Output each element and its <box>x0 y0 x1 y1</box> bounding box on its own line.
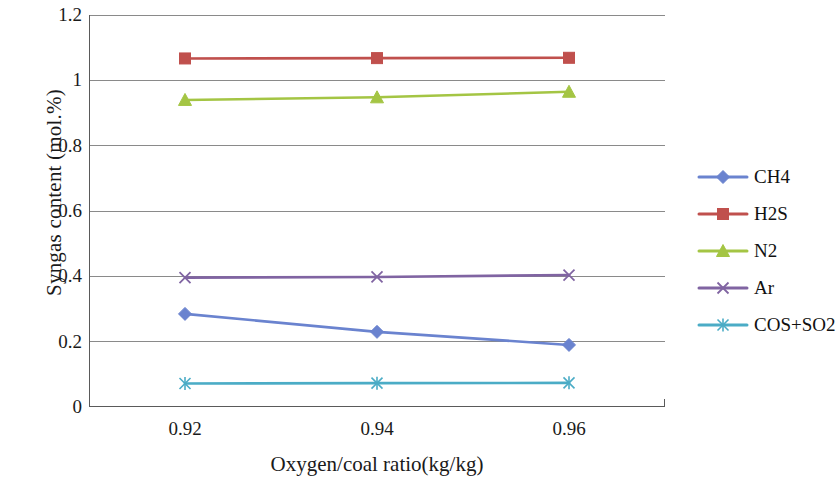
y-axis-tick-labels: 00.20.40.60.811.2 <box>30 0 82 420</box>
plot-area <box>89 15 665 407</box>
y-tick-label: 0 <box>36 397 82 416</box>
data-point-marker <box>179 307 192 320</box>
legend-item-ch4: CH4 <box>697 158 837 195</box>
x-tick-label: 0.92 <box>130 418 240 440</box>
plot-svg <box>89 15 665 407</box>
series-n2 <box>179 85 576 105</box>
x-tick-label: 0.94 <box>322 418 432 440</box>
x-axis-title: Oxygen/coal ratio(kg/kg) <box>89 452 665 477</box>
series-ch4 <box>179 307 576 351</box>
legend-marker-asterisk-icon <box>697 314 749 336</box>
x-axis-tick-labels: 0.920.940.96 <box>89 418 665 444</box>
y-tick-label: 0.8 <box>36 136 82 155</box>
legend-label: COS+SO2 <box>749 315 835 334</box>
series-ar <box>180 270 575 284</box>
legend-item-ar: Ar <box>697 269 837 306</box>
data-point-marker <box>718 208 729 219</box>
y-tick-label: 0.4 <box>36 266 82 285</box>
data-point-marker <box>564 52 575 63</box>
data-point-marker <box>372 53 383 64</box>
legend-label: H2S <box>749 204 788 223</box>
legend-item-n2: N2 <box>697 232 837 269</box>
y-tick-label: 1 <box>36 70 82 89</box>
legend-label: Ar <box>749 278 774 297</box>
y-tick-label: 1.2 <box>36 5 82 24</box>
y-tick-label: 0.6 <box>36 201 82 220</box>
legend-item-h2s: H2S <box>697 195 837 232</box>
legend-label: N2 <box>749 241 777 260</box>
legend-item-cos-so2: COS+SO2 <box>697 306 837 343</box>
series-h2s <box>180 52 575 64</box>
x-tick-label: 0.96 <box>514 418 624 440</box>
legend-marker-square-icon <box>697 203 749 225</box>
legend-marker-triangle-icon <box>697 240 749 262</box>
legend-marker-diamond-icon <box>697 166 749 188</box>
data-point-marker <box>371 325 384 338</box>
legend-marker-x-icon <box>697 277 749 299</box>
data-point-marker <box>180 53 191 64</box>
series-cos-so2 <box>180 376 575 390</box>
y-tick-label: 0.2 <box>36 332 82 351</box>
legend-label: CH4 <box>749 167 790 186</box>
data-point-marker <box>717 170 730 183</box>
chart-legend: CH4H2SN2ArCOS+SO2 <box>697 158 837 343</box>
data-point-marker <box>563 338 576 351</box>
syngas-content-chart: Syngas content (mol.%) 00.20.40.60.811.2… <box>0 0 840 491</box>
